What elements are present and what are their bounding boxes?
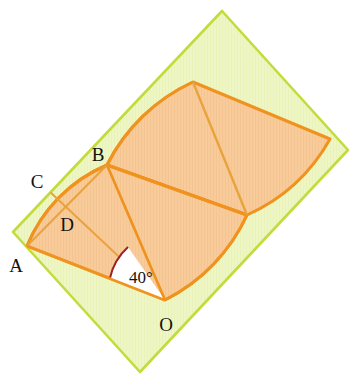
point-label-b: B: [92, 144, 105, 165]
angle-label-40: 40°: [129, 268, 153, 287]
point-label-a: A: [9, 255, 23, 276]
geometry-canvas: A B C D O 40°: [0, 0, 360, 385]
geometry-figure: A B C D O 40°: [0, 0, 360, 385]
point-label-d: D: [60, 214, 74, 235]
point-label-c: C: [31, 171, 44, 192]
point-label-o: O: [159, 314, 173, 335]
